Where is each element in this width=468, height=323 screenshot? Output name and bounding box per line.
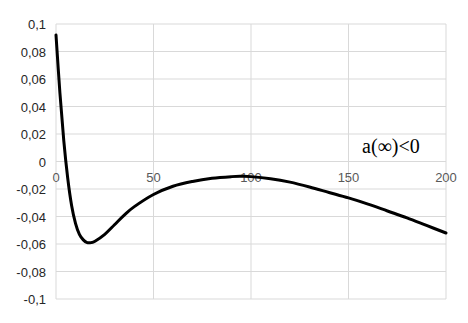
y-tick-label: 0 xyxy=(39,155,46,170)
y-tick-label: 0,02 xyxy=(21,127,46,142)
x-tick-label: 150 xyxy=(338,170,360,185)
gridlines xyxy=(56,24,446,299)
x-tick-label: 50 xyxy=(146,170,160,185)
y-tick-label: 0,06 xyxy=(21,72,46,87)
y-tick-label: 0,1 xyxy=(28,17,46,32)
x-tick-label: 0 xyxy=(52,170,59,185)
y-tick-label: -0,02 xyxy=(16,182,46,197)
annotation-a-infinity: a(∞)<0 xyxy=(362,135,420,158)
x-tick-label: 200 xyxy=(435,170,457,185)
y-tick-label: -0,04 xyxy=(16,210,46,225)
y-tick-label: -0,1 xyxy=(24,292,46,307)
y-tick-label: 0,04 xyxy=(21,100,46,115)
y-tick-label: -0,06 xyxy=(16,237,46,252)
y-tick-label: 0,08 xyxy=(21,45,46,60)
line-chart: 0,10,080,060,040,020-0,02-0,04-0,06-0,08… xyxy=(0,0,468,323)
y-axis-ticks: 0,10,080,060,040,020-0,02-0,04-0,06-0,08… xyxy=(16,17,46,307)
y-tick-label: -0,08 xyxy=(16,265,46,280)
